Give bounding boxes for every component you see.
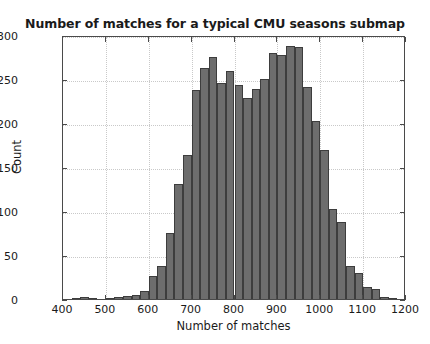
y-tick-mark — [62, 300, 67, 301]
histogram-bar — [174, 184, 183, 299]
x-tick-mark-top — [105, 37, 106, 42]
x-tick-mark-top — [191, 37, 192, 42]
gridline-vertical — [149, 37, 150, 299]
y-tick-label: 300 — [0, 30, 18, 43]
x-tick-mark — [234, 295, 235, 300]
x-tick-label: 400 — [52, 303, 73, 316]
histogram-bar — [303, 87, 312, 299]
histogram-bar — [320, 150, 329, 299]
gridline-vertical — [106, 37, 107, 299]
x-tick-label: 900 — [266, 303, 287, 316]
x-tick-label: 1200 — [391, 303, 419, 316]
x-tick-mark — [191, 295, 192, 300]
y-tick-mark-right — [400, 168, 405, 169]
histogram-bar — [192, 90, 201, 299]
x-tick-label: 800 — [223, 303, 244, 316]
histogram-bar — [226, 71, 235, 299]
y-tick-mark-right — [400, 124, 405, 125]
histogram-bar — [346, 266, 355, 299]
x-tick-label: 600 — [137, 303, 158, 316]
x-tick-mark-top — [148, 37, 149, 42]
y-tick-mark — [62, 80, 67, 81]
histogram-bar — [89, 298, 98, 299]
histogram-bar — [277, 55, 286, 299]
histogram-bar — [106, 298, 115, 299]
x-tick-mark — [405, 295, 406, 300]
x-tick-label: 1000 — [305, 303, 333, 316]
histogram-bar — [295, 47, 304, 299]
histogram-bar — [380, 297, 389, 299]
x-tick-mark — [276, 295, 277, 300]
histogram-bar — [166, 233, 175, 299]
histogram-bar — [243, 98, 252, 299]
y-tick-label: 250 — [0, 74, 18, 87]
chart-title: Number of matches for a typical CMU seas… — [0, 16, 430, 31]
histogram-bar — [149, 276, 158, 299]
histogram-bar — [372, 289, 381, 299]
x-tick-mark — [319, 295, 320, 300]
x-tick-mark — [105, 295, 106, 300]
y-tick-mark — [62, 168, 67, 169]
histogram-bar — [72, 298, 81, 299]
y-tick-mark — [62, 256, 67, 257]
y-tick-label: 50 — [4, 250, 18, 263]
x-axis-label: Number of matches — [62, 319, 405, 333]
x-tick-mark-top — [62, 37, 63, 42]
histogram-bar — [217, 83, 226, 299]
histogram-figure: Number of matches for a typical CMU seas… — [0, 0, 430, 344]
histogram-bar — [312, 121, 321, 299]
x-tick-mark — [62, 295, 63, 300]
y-tick-mark — [62, 124, 67, 125]
x-tick-mark-top — [362, 37, 363, 42]
histogram-bar — [132, 295, 141, 299]
y-tick-label: 0 — [11, 294, 18, 307]
y-tick-mark-right — [400, 256, 405, 257]
histogram-bar — [80, 297, 89, 299]
x-tick-label: 500 — [94, 303, 115, 316]
y-tick-mark-right — [400, 212, 405, 213]
histogram-bar — [269, 53, 278, 299]
histogram-bar — [209, 57, 218, 299]
histogram-bar — [183, 155, 192, 299]
x-tick-mark-top — [405, 37, 406, 42]
y-tick-label: 100 — [0, 206, 18, 219]
x-tick-mark-top — [319, 37, 320, 42]
histogram-bar — [235, 85, 244, 299]
x-tick-mark-top — [276, 37, 277, 42]
x-tick-mark — [148, 295, 149, 300]
histogram-bar — [114, 297, 123, 299]
y-tick-mark — [62, 212, 67, 213]
y-axis-label: Count — [10, 117, 24, 197]
histogram-bar — [157, 266, 166, 299]
histogram-bar — [252, 89, 261, 299]
y-tick-mark-right — [400, 80, 405, 81]
x-tick-label: 1100 — [348, 303, 376, 316]
plot-area — [62, 36, 405, 300]
x-tick-label: 700 — [180, 303, 201, 316]
histogram-bar — [200, 68, 209, 299]
histogram-bar — [389, 298, 398, 299]
x-tick-mark — [362, 295, 363, 300]
histogram-bar — [329, 209, 338, 299]
histogram-bar — [260, 79, 269, 299]
gridline-vertical — [363, 37, 364, 299]
histogram-bar — [337, 222, 346, 299]
histogram-bar — [286, 46, 295, 299]
y-tick-mark-right — [400, 300, 405, 301]
histogram-bar — [123, 296, 132, 299]
histogram-bar — [363, 287, 372, 299]
x-tick-mark-top — [234, 37, 235, 42]
